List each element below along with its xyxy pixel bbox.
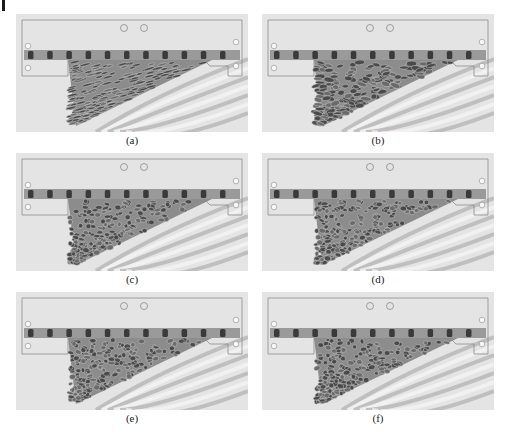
figure-panel-e: (e) (16, 292, 248, 427)
caption-b: (b) (262, 134, 494, 146)
field-cell (130, 370, 135, 373)
field-cell (404, 354, 408, 358)
field-cell (384, 350, 390, 355)
figure-panel-d: (d) (262, 153, 494, 288)
feed-strip (270, 189, 486, 199)
feed-strip-cell (124, 51, 130, 59)
field-cell (162, 214, 168, 218)
feed-strip-cell (428, 190, 434, 198)
caption-d: (d) (262, 273, 494, 285)
field-cell (172, 341, 177, 347)
feed-strip-cell (351, 190, 357, 198)
field-cell (342, 229, 347, 234)
field-cell (82, 385, 86, 388)
field-cell (349, 385, 354, 390)
figure-panel-b: (b) (262, 14, 494, 149)
field-cell (113, 235, 119, 241)
field-cell (350, 206, 354, 210)
field-cell (314, 116, 320, 121)
field-cell (336, 349, 341, 353)
feed-strip-cell (332, 329, 338, 337)
feed-strip-cell (312, 51, 318, 59)
field-cell (352, 243, 358, 248)
field-cell (329, 339, 334, 344)
feed-strip-cell (274, 51, 280, 59)
corner-circle (233, 178, 239, 184)
field-cell (384, 369, 390, 373)
field-cell (389, 206, 395, 211)
field-cell (318, 393, 322, 397)
field-cell (315, 107, 324, 111)
field-cell (349, 237, 354, 241)
field-cell (128, 211, 133, 215)
corner-circle (25, 43, 31, 49)
feed-strip-cell (124, 190, 130, 198)
field-cell (366, 236, 373, 241)
field-cell (354, 230, 360, 234)
feed-strip-cell (332, 190, 338, 198)
field-cell (355, 103, 364, 108)
field-cell (179, 207, 185, 213)
feed-strip-cell (274, 190, 280, 198)
field-cell (67, 215, 73, 220)
field-cell (314, 77, 323, 80)
field-cell (150, 200, 157, 203)
caption-e: (e) (16, 412, 248, 424)
field-cell (423, 206, 429, 211)
field-cell (342, 84, 349, 88)
field-cell (96, 351, 103, 355)
corner-circle (25, 65, 31, 71)
feed-strip-cell (86, 190, 92, 198)
field-cell (83, 199, 88, 204)
field-cell (95, 360, 99, 363)
corner-circle (271, 43, 277, 49)
field-cell (394, 75, 401, 80)
corner-circle (479, 202, 485, 208)
corner-circle (25, 343, 31, 349)
corner-circle (271, 65, 277, 71)
field-cell (336, 222, 341, 226)
field-cell (178, 339, 184, 344)
feed-strip (24, 189, 240, 199)
field-cell (136, 204, 142, 208)
feed-strip-cell (220, 329, 226, 337)
feed-strip-cell (162, 190, 168, 198)
corner-circle (233, 63, 239, 69)
field-cell (72, 341, 77, 346)
feed-strip-cell (351, 51, 357, 59)
field-cell (142, 228, 147, 233)
feed-strip-cell (293, 51, 299, 59)
field-cell (379, 357, 386, 360)
corner-circle (479, 178, 485, 184)
field-cell (340, 242, 346, 247)
feed-strip-cell (312, 190, 318, 198)
feed-strip (24, 328, 240, 338)
feed-strip-cell (447, 329, 453, 337)
field-cell (165, 202, 170, 207)
field-cell (89, 219, 95, 224)
feed-strip-cell (293, 329, 299, 337)
field-cell (350, 88, 358, 93)
caption-a: (a) (16, 134, 248, 146)
field-cell (325, 68, 334, 72)
field-cell (400, 66, 409, 69)
feed-strip-cell (201, 329, 207, 337)
field-cell (99, 235, 104, 238)
field-cell (317, 240, 323, 245)
field-cell (158, 218, 165, 222)
corner-circle (233, 341, 239, 347)
feed-strip-cell (312, 329, 318, 337)
field-cell (376, 202, 383, 207)
feed-strip-cell (466, 51, 472, 59)
corner-circle (271, 182, 277, 188)
field-cell (374, 371, 378, 375)
field-cell (174, 350, 180, 354)
feed-strip-cell (162, 329, 168, 337)
feed-strip-cell (28, 329, 34, 337)
feed-strip-cell (293, 190, 299, 198)
field-cell (95, 206, 102, 210)
field-cell (318, 379, 323, 382)
feed-strip-cell (143, 190, 149, 198)
field-cell (396, 347, 400, 350)
field-cell (112, 217, 118, 221)
